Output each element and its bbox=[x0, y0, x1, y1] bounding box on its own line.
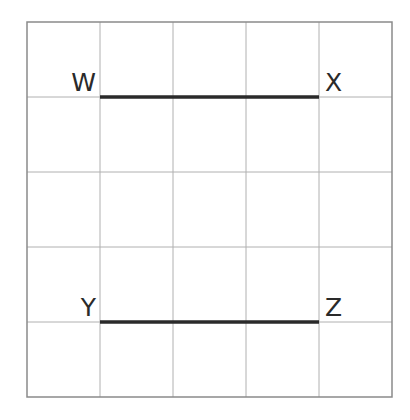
diagram-canvas: W X Y Z bbox=[0, 0, 410, 420]
point-label-w: W bbox=[71, 68, 96, 97]
point-label-y: Y bbox=[80, 293, 97, 322]
point-label-z: Z bbox=[325, 293, 342, 322]
point-label-x: X bbox=[325, 68, 342, 97]
grid-diagram: W X Y Z bbox=[0, 0, 410, 420]
